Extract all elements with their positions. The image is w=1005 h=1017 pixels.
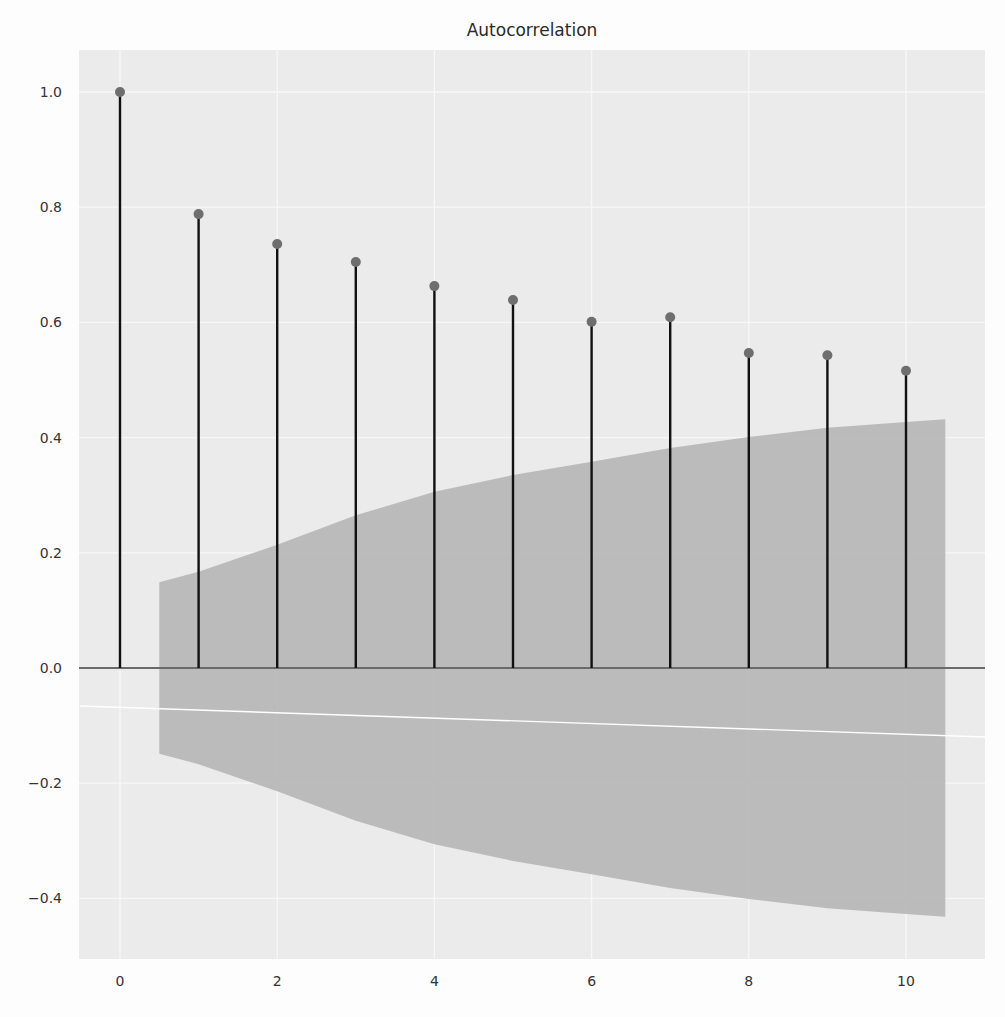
stem-marker [194,209,204,219]
x-tick-label: 6 [587,973,596,989]
x-tick-label: 10 [897,973,915,989]
y-tick-label: 0.2 [40,545,62,561]
autocorrelation-chart: Autocorrelation 1.00.80.60.40.20.0−0.2−0… [0,0,1005,1017]
stem-marker [429,281,439,291]
y-tick-label: 0.8 [40,199,62,215]
chart-canvas: 1.00.80.60.40.20.0−0.2−0.4 0246810 [0,0,1005,1017]
y-tick-label: 0.4 [40,430,62,446]
x-tick-label: 2 [273,973,282,989]
x-tick-label: 0 [116,973,125,989]
y-tick-label: 0.0 [40,660,62,676]
stem-marker [115,87,125,97]
stem-marker [665,312,675,322]
y-tick-label: 0.6 [40,314,62,330]
y-tick-label: −0.2 [28,775,62,791]
x-tick-label: 8 [744,973,753,989]
y-tick-label: −0.4 [28,890,62,906]
y-axis-tick-labels: 1.00.80.60.40.20.0−0.2−0.4 [28,84,62,906]
stem-marker [508,295,518,305]
stem-marker [351,257,361,267]
stem-marker [272,239,282,249]
x-tick-label: 4 [430,973,439,989]
stem-marker [901,366,911,376]
x-axis-tick-labels: 0246810 [116,973,915,989]
stem-marker [587,317,597,327]
y-tick-label: 1.0 [40,84,62,100]
stem-marker [744,348,754,358]
stem-marker [822,350,832,360]
